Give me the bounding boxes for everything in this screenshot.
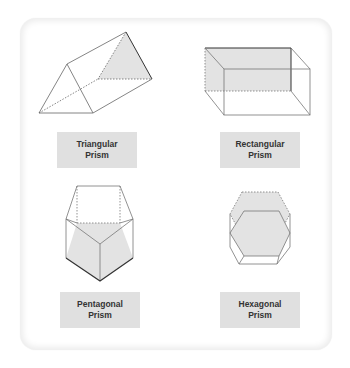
label-hexagonal-prism: Hexagonal Prism: [220, 292, 300, 328]
label-triangular-prism: Triangular Prism: [57, 132, 137, 168]
label-line: Prism: [239, 310, 282, 321]
label-rectangular-prism: Rectangular Prism: [220, 132, 300, 168]
label-line: Prism: [76, 150, 117, 161]
label-line: Rectangular: [235, 139, 284, 150]
hexagonal-prism-shape: [230, 192, 290, 264]
label-line: Hexagonal: [239, 299, 282, 310]
rectangular-prism-shape: [205, 48, 310, 115]
label-line: Prism: [77, 310, 123, 321]
label-line: Prism: [235, 150, 284, 161]
label-line: Pentagonal: [77, 299, 123, 310]
pentagonal-prism-shape: [66, 186, 133, 281]
label-line: Triangular: [76, 139, 117, 150]
label-pentagonal-prism: Pentagonal Prism: [60, 292, 140, 328]
triangular-prism-shape: [39, 32, 152, 113]
